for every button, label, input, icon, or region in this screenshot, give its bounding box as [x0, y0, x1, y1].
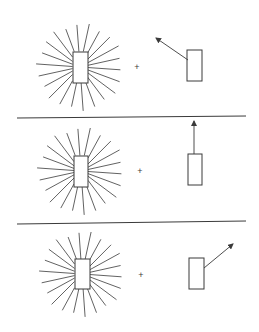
- target-block: [187, 50, 202, 81]
- plus-operator: +: [134, 62, 139, 72]
- diagram-canvas: + + +: [0, 0, 259, 332]
- ray-line: [90, 284, 106, 306]
- divider-line: [17, 116, 246, 118]
- source-block: [75, 259, 90, 289]
- ray-line: [72, 83, 77, 107]
- ray-line: [42, 276, 75, 283]
- panel-1: +: [36, 24, 202, 111]
- ray-line: [81, 83, 83, 111]
- ray-line: [60, 81, 73, 104]
- ray-line: [68, 237, 76, 259]
- ray-line: [45, 260, 75, 271]
- plus-operator: +: [138, 270, 143, 280]
- ray-line: [88, 172, 121, 174]
- ray-line: [88, 176, 116, 197]
- ray-line: [88, 37, 110, 59]
- ray-line: [88, 162, 121, 169]
- ray-line: [85, 232, 91, 259]
- ray-line: [90, 245, 112, 267]
- arrow-up-right-icon: [204, 244, 233, 268]
- ray-line: [61, 184, 74, 208]
- ray-line: [82, 187, 84, 215]
- ray-line: [54, 32, 73, 57]
- diagram-svg: + + +: [0, 0, 259, 332]
- ray-line: [37, 168, 74, 171]
- arrow-up-left-icon: [156, 38, 188, 60]
- ray-line: [40, 173, 74, 181]
- ray-line: [83, 24, 89, 52]
- ray-line: [88, 135, 100, 158]
- source-block: [73, 52, 88, 83]
- ray-line: [79, 233, 81, 259]
- source-block: [74, 156, 88, 187]
- ray-line: [84, 128, 90, 156]
- ray-line: [39, 69, 73, 76]
- ray-line: [88, 289, 97, 313]
- ray-line: [88, 31, 100, 53]
- ray-line: [88, 68, 121, 70]
- panel-3: +: [39, 232, 233, 317]
- ray-line: [90, 266, 121, 273]
- ray-line: [78, 129, 80, 156]
- ray-line: [36, 64, 72, 67]
- ray-line: [88, 58, 120, 65]
- ray-line: [86, 83, 95, 107]
- ray-line: [62, 288, 74, 311]
- ray-line: [56, 240, 74, 264]
- ray-line: [83, 289, 85, 317]
- ray-line: [39, 271, 74, 274]
- ray-line: [52, 282, 75, 305]
- ray-line: [87, 187, 96, 211]
- plus-operator: +: [137, 166, 142, 176]
- panel-2: +: [37, 121, 202, 215]
- ray-line: [73, 187, 78, 211]
- ray-line: [88, 150, 120, 167]
- ray-line: [55, 136, 74, 162]
- ray-line: [88, 180, 105, 203]
- target-block: [189, 258, 204, 289]
- ray-line: [42, 53, 72, 64]
- target-block: [188, 154, 202, 185]
- ray-line: [74, 289, 79, 313]
- ray-line: [66, 29, 74, 51]
- ray-line: [67, 133, 75, 155]
- ray-line: [49, 75, 73, 99]
- ray-line: [88, 77, 105, 99]
- ray-line: [90, 275, 122, 277]
- ray-line: [77, 25, 79, 52]
- divider-line: [17, 221, 246, 224]
